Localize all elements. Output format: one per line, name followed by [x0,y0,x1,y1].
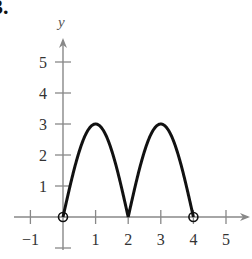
x-tick-label: 4 [189,231,197,248]
y-tick-label: 2 [39,147,47,164]
y-tick-label: 4 [39,85,47,102]
y-tick-label: 1 [39,178,47,195]
x-tick-label: −1 [22,231,39,248]
x-tick-label: 2 [124,231,132,248]
y-axis-label: y [56,14,65,30]
problem-number: 3. [0,0,9,19]
function-graph: 3. y −11234512345 [0,0,252,259]
y-tick-label: 5 [39,54,47,71]
y-tick-label: 3 [39,116,47,133]
x-tick-label: 3 [157,231,165,248]
data-curve [59,124,198,222]
x-tick-label: 5 [222,231,230,248]
x-tick-label: 1 [92,231,100,248]
axis-ticks: −11234512345 [22,54,230,249]
